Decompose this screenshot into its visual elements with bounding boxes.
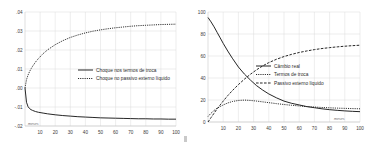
x-tick-label: 40 bbox=[83, 130, 89, 135]
left-chart-svg: .04.03.02.01.00-.01-.02 1020304050607080… bbox=[0, 0, 184, 146]
right-x-tick-labels: 102030405060708090100 bbox=[221, 126, 365, 131]
right-chart-svg: 100806040200 102030405060708090100 meses… bbox=[184, 0, 368, 146]
y-tick-label: -.01 bbox=[15, 105, 23, 110]
x-tick-label: 20 bbox=[236, 126, 242, 131]
chart-panel-left: .04.03.02.01.00-.01-.02 1020304050607080… bbox=[0, 0, 184, 146]
x-tick-label: 90 bbox=[158, 130, 164, 135]
x-tick-label: 80 bbox=[143, 130, 149, 135]
y-tick-label: 40 bbox=[200, 76, 206, 81]
left-legend: Choque nos termos de trocaChoque no pass… bbox=[78, 68, 170, 82]
y-tick-label: .04 bbox=[16, 10, 23, 15]
y-tick-label: .02 bbox=[16, 48, 23, 53]
y-tick-label: 20 bbox=[200, 98, 206, 103]
legend-label: Passivo externo líquido bbox=[274, 81, 324, 86]
y-tick-label: 100 bbox=[198, 10, 206, 15]
y-tick-label: .00 bbox=[16, 86, 23, 91]
x-tick-label: 70 bbox=[312, 126, 318, 131]
legend-label: Choque nos termos de troca bbox=[96, 68, 157, 73]
x-tick-label: 50 bbox=[281, 126, 287, 131]
y-tick-label: -.02 bbox=[15, 124, 23, 129]
y-tick-label: .03 bbox=[16, 29, 23, 34]
y-tick-label: .01 bbox=[16, 67, 23, 72]
x-tick-label: 60 bbox=[297, 126, 303, 131]
x-tick-label: 100 bbox=[172, 130, 180, 135]
left-y-tick-labels: .04.03.02.01.00-.01-.02 bbox=[15, 10, 23, 129]
legend-label: Termos de troca bbox=[274, 72, 309, 77]
left-xaxis-note: meses bbox=[28, 122, 39, 126]
x-tick-label: 60 bbox=[113, 130, 119, 135]
panel-corner-mark bbox=[184, 136, 187, 142]
y-tick-label: 80 bbox=[200, 32, 206, 37]
chart-panel-right: 100806040200 102030405060708090100 meses… bbox=[184, 0, 368, 146]
right-legend: Câmbio realTermos de trocaPassivo extern… bbox=[256, 64, 324, 86]
x-tick-label: 30 bbox=[251, 126, 257, 131]
x-tick-label: 50 bbox=[98, 130, 104, 135]
legend-label: Câmbio real bbox=[274, 64, 300, 69]
left-x-tick-labels: 102030405060708090100 bbox=[38, 130, 181, 135]
legend-label: Choque no passivo externo líquido bbox=[96, 76, 170, 81]
x-tick-label: 80 bbox=[327, 126, 333, 131]
x-tick-label: 10 bbox=[221, 126, 227, 131]
dual-line-chart-figure: .04.03.02.01.00-.01-.02 1020304050607080… bbox=[0, 0, 368, 146]
x-tick-label: 10 bbox=[38, 130, 44, 135]
x-tick-label: 20 bbox=[53, 130, 59, 135]
x-tick-label: 90 bbox=[342, 126, 348, 131]
x-tick-label: 100 bbox=[356, 126, 364, 131]
x-tick-label: 70 bbox=[128, 130, 134, 135]
y-tick-label: 0 bbox=[203, 120, 206, 125]
x-tick-label: 30 bbox=[68, 130, 74, 135]
x-tick-label: 40 bbox=[266, 126, 272, 131]
y-tick-label: 60 bbox=[200, 54, 206, 59]
right-y-tick-labels: 100806040200 bbox=[198, 10, 206, 125]
right-xaxis-note: meses bbox=[334, 117, 345, 121]
